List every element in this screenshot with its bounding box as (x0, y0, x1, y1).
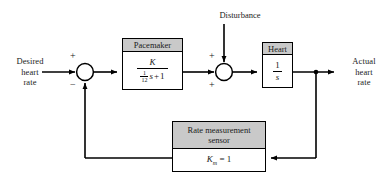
sum1-minus-sign: − (70, 80, 76, 90)
pacemaker-denominator: 1 12 s + 1 (137, 68, 167, 83)
pacemaker-fraction: K 1 12 s + 1 (137, 58, 167, 83)
pacemaker-block: Pacemaker K 1 12 s + 1 (122, 38, 183, 90)
heart-block: Heart 1 s (262, 42, 293, 88)
desired-heart-rate-label: Desired heart rate (6, 56, 54, 88)
desired-label-line3: rate (6, 77, 54, 88)
actual-label-line1: Actual (340, 56, 388, 67)
sensor-gain-subscript: m (213, 160, 217, 166)
sum2-plus-sign-bottom: + (209, 80, 215, 90)
pacemaker-denominator-operator: + (154, 72, 159, 81)
heart-block-header: Heart (263, 43, 292, 55)
disturbance-label: Disturbance (195, 10, 285, 20)
sensor-gain-value: 1 (227, 154, 232, 164)
actual-heart-rate-label: Actual heart rate (340, 56, 388, 88)
summing-junction-1 (77, 64, 94, 81)
heart-numerator: 1 (272, 61, 283, 71)
desired-label-line1: Desired (6, 56, 54, 67)
sensor-header-line1: Rate measurement (187, 125, 250, 135)
feedback-takeoff-node (314, 70, 319, 75)
heart-transfer-function: 1 s (263, 55, 292, 87)
pacemaker-block-header: Pacemaker (123, 39, 182, 52)
sensor-header-line2: sensor (208, 135, 230, 145)
sensor-gain: Km = 1 (207, 154, 231, 166)
pacemaker-coeff-denominator: 12 (140, 76, 148, 83)
pacemaker-numerator: K (146, 58, 158, 68)
heart-denominator: s (273, 71, 283, 82)
heart-fraction: 1 s (272, 61, 283, 82)
sensor-gain-expression: Km = 1 (173, 149, 265, 171)
desired-label-line2: heart (6, 67, 54, 78)
summing-junction-2 (216, 64, 233, 81)
pacemaker-denominator-variable: s (149, 72, 153, 81)
rate-measurement-sensor-block: Rate measurement sensor Km = 1 (172, 121, 266, 172)
pacemaker-denominator-coefficient: 1 12 (140, 70, 148, 83)
sensor-gain-equals: = (219, 154, 224, 164)
block-diagram: Desired heart rate Actual heart rate Dis… (0, 0, 391, 189)
pacemaker-transfer-function: K 1 12 s + 1 (123, 52, 182, 89)
actual-label-line3: rate (340, 77, 388, 88)
sum2-plus-sign-top: + (209, 51, 215, 61)
actual-label-line2: heart (340, 67, 388, 78)
sum1-plus-sign: + (70, 51, 76, 61)
pacemaker-denominator-constant: 1 (160, 72, 165, 81)
sensor-block-header: Rate measurement sensor (173, 122, 265, 149)
